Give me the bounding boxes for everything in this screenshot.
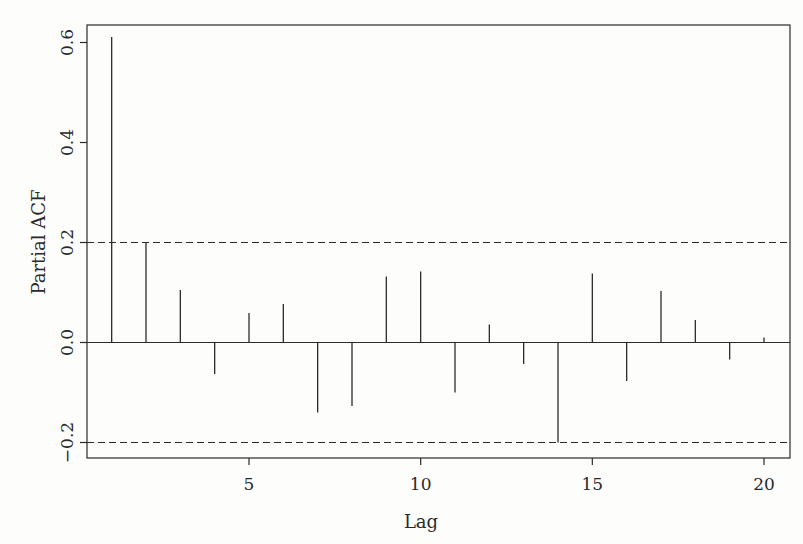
y-tick-label: 0.6 bbox=[57, 29, 77, 56]
y-tick-label: 0.2 bbox=[57, 229, 77, 256]
x-tick-label: 15 bbox=[582, 474, 604, 494]
y-tick-label: 0.0 bbox=[57, 329, 77, 356]
y-tick-label: −0.2 bbox=[57, 422, 77, 463]
x-tick-label: 10 bbox=[410, 474, 432, 494]
y-axis: −0.20.00.20.40.6 bbox=[57, 29, 87, 463]
x-axis-title: Lag bbox=[404, 511, 438, 532]
y-tick-label: 0.4 bbox=[57, 129, 77, 156]
stems bbox=[112, 37, 764, 443]
x-tick-label: 5 bbox=[244, 474, 255, 494]
x-axis: 5101520 bbox=[244, 458, 775, 494]
y-axis-title: Partial ACF bbox=[28, 189, 49, 294]
plot-frame bbox=[87, 25, 790, 458]
pacf-chart: 5101520 −0.20.00.20.40.6 Lag Partial ACF bbox=[0, 0, 803, 544]
x-tick-label: 20 bbox=[753, 474, 775, 494]
